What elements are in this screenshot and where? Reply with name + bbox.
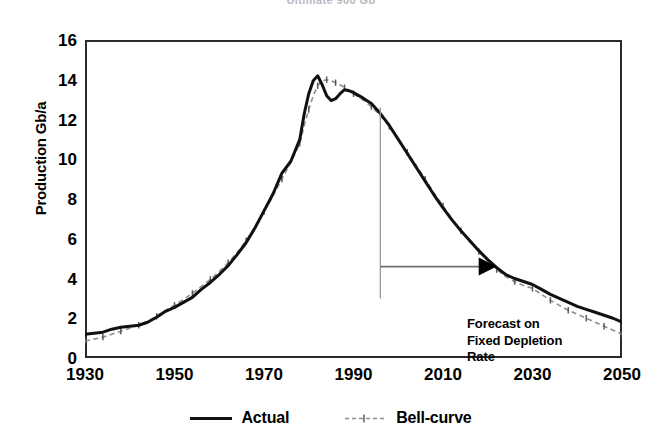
chart-figure: Ultimate 900 Gb Production Gb/a 02468101… (0, 0, 662, 446)
chart-title-strip: Ultimate 900 Gb (0, 0, 662, 9)
x-tick-1990: 1990 (309, 366, 399, 383)
y-tick-12: 12 (3, 112, 77, 129)
chart-legend: Actual Bell-curve (0, 409, 662, 427)
y-tick-8: 8 (3, 191, 77, 208)
annotation-line-1: Forecast on (467, 316, 562, 333)
x-tick-2030: 2030 (488, 366, 578, 383)
y-tick-2: 2 (3, 310, 77, 327)
series-actual (85, 76, 622, 334)
legend-entry-bell-curve: Bell-curve (345, 409, 471, 427)
forecast-annotation: Forecast on Fixed Depletion Rate (467, 316, 562, 366)
x-tick-1970: 1970 (219, 366, 309, 383)
x-tick-1930: 1930 (40, 366, 130, 383)
y-tick-10: 10 (3, 151, 77, 168)
y-tick-14: 14 (3, 72, 77, 89)
series-bell-curve (85, 77, 622, 345)
legend-entry-actual: Actual (190, 409, 289, 427)
legend-swatch-actual-line (190, 417, 232, 420)
x-tick-1950: 1950 (130, 366, 220, 383)
x-tick-2050: 2050 (577, 366, 662, 383)
annotation-line-3: Rate (467, 349, 562, 366)
legend-label-actual: Actual (241, 409, 289, 427)
plot-area: Forecast on Fixed Depletion Rate (85, 40, 622, 358)
x-tick-2010: 2010 (398, 366, 488, 383)
y-tick-4: 4 (3, 271, 77, 288)
y-tick-6: 6 (3, 231, 77, 248)
legend-label-bell-curve: Bell-curve (396, 409, 471, 427)
legend-swatch-bell-curve-line (345, 413, 387, 424)
chart-title: Ultimate 900 Gb (0, 0, 662, 6)
y-tick-16: 16 (3, 32, 77, 49)
chart-canvas (85, 40, 622, 358)
annotation-line-2: Fixed Depletion (467, 333, 562, 350)
